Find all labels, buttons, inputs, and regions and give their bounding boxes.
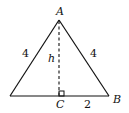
label-vertex-c: C [56,98,65,111]
label-half-base: 2 [84,98,91,111]
label-vertex-a: A [55,5,64,18]
triangle-diagram: A B C h 4 4 2 [0,0,129,113]
side-right [59,20,109,96]
label-left-side: 4 [22,47,29,60]
label-height-h: h [48,52,55,65]
label-vertex-b: B [112,93,121,106]
right-angle-marker [59,91,64,96]
label-right-side: 4 [90,47,97,60]
